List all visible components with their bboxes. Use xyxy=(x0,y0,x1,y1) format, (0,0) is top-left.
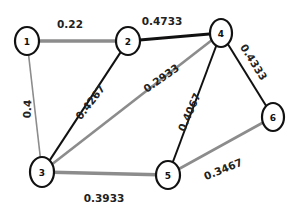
node-2: 2 xyxy=(116,27,140,55)
node-label: 3 xyxy=(39,168,45,178)
edge-weight-label-3-4: 0.2933 xyxy=(141,61,181,94)
node-6: 6 xyxy=(262,103,284,131)
node-5: 5 xyxy=(156,161,180,189)
edge-weight-label-4-5: 0.4067 xyxy=(175,91,202,133)
node-label: 2 xyxy=(125,37,131,47)
edge-weight-label-4-6: 0.4333 xyxy=(238,42,270,83)
graph-diagram: 0.220.47330.40.42670.29330.43330.40670.3… xyxy=(0,0,299,209)
node-1: 1 xyxy=(15,27,39,55)
node-label: 6 xyxy=(270,113,276,123)
edge-weight-label-1-2: 0.22 xyxy=(57,18,83,30)
node-4: 4 xyxy=(210,19,232,47)
edge-weight-label-2-4: 0.4733 xyxy=(142,15,183,27)
node-label: 4 xyxy=(218,29,224,39)
node-label: 1 xyxy=(24,37,30,47)
edge-weight-label-3-5: 0.3933 xyxy=(84,192,125,204)
node-label: 5 xyxy=(165,171,171,181)
edge-2-4 xyxy=(128,33,221,41)
edges-layer xyxy=(27,33,273,175)
edge-weight-label-2-3: 0.4267 xyxy=(73,82,107,121)
edge-weight-label-1-3: 0.4 xyxy=(21,99,34,118)
edge-weight-label-5-6: 0.3467 xyxy=(202,156,244,182)
node-3: 3 xyxy=(30,157,54,187)
edge-3-5 xyxy=(42,172,168,175)
